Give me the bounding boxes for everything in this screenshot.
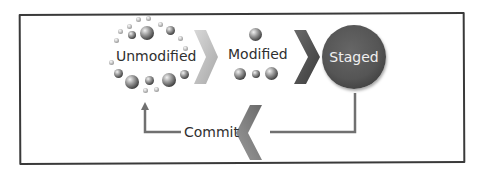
edge-label-commit: Commit: [184, 124, 239, 140]
chevron-right-icon: [194, 30, 218, 84]
node-label-unmodified: Unmodified: [116, 48, 196, 64]
node-staged: Staged: [322, 25, 386, 89]
connectors: [0, 0, 483, 174]
node-label-modified: Modified: [228, 46, 288, 62]
commit-connector-line: [270, 93, 355, 132]
chevron-left-icon: [236, 105, 262, 160]
node-label-staged: Staged: [329, 49, 378, 65]
commit-return-line: [145, 109, 181, 132]
chevron-right-icon: [294, 30, 320, 84]
arrow-up-icon: [141, 102, 149, 110]
